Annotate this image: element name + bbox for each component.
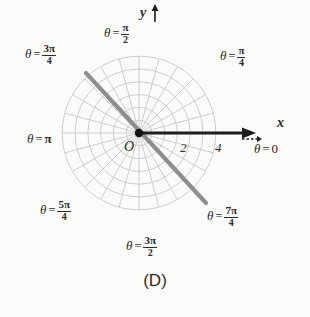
polar-diagram-figure: y θ=π2 θ=3π4 θ=π4 θ=π θ=5π4 θ=3π2 θ=7π4 …	[0, 0, 310, 317]
zero-value: 0	[271, 141, 278, 156]
fraction-numerator: π	[121, 22, 129, 35]
origin-dot	[135, 129, 143, 137]
fraction-denominator: 4	[237, 58, 245, 69]
x-axis-arrow	[139, 128, 256, 139]
angle-label-theta-5pi-over-4: θ=5π4	[40, 199, 71, 223]
fraction-denominator: 4	[57, 212, 71, 223]
equals-symbol: =	[213, 209, 224, 223]
fraction-denominator: 2	[121, 35, 129, 46]
angle-label-theta-pi: θ=π	[27, 132, 52, 146]
angle-label-theta-pi-over-2: θ=π2	[104, 22, 129, 46]
equals-symbol: =	[132, 239, 143, 253]
x-tick-label-4: 4	[215, 141, 222, 154]
fraction-denominator: 4	[42, 56, 56, 67]
fraction-numerator: 5π	[57, 199, 71, 212]
y-axis-arrow-tick	[152, 4, 159, 22]
y-axis-label: y	[140, 6, 146, 20]
x-axis-label: x	[277, 116, 284, 130]
equals-symbol: =	[31, 47, 42, 61]
fraction-pi-over-4: π4	[237, 45, 245, 69]
figure-caption: (D)	[0, 271, 310, 291]
origin-label: O	[124, 140, 134, 154]
equals-symbol: =	[110, 26, 121, 40]
fraction-numerator: 3π	[42, 43, 56, 56]
angle-label-theta-0: θ=0	[254, 142, 278, 156]
fraction-3pi-over-2: 3π2	[143, 235, 157, 259]
fraction-numerator: 7π	[224, 205, 238, 218]
angle-label-theta-7pi-over-4: θ=7π4	[207, 205, 238, 229]
x-tick-label-2: 2	[180, 141, 187, 154]
fraction-7pi-over-4: 7π4	[224, 205, 238, 229]
fraction-pi-over-2: π2	[121, 22, 129, 46]
angle-label-theta-3pi-over-4: θ=3π4	[25, 43, 56, 67]
equals-symbol: =	[226, 49, 237, 63]
angle-label-theta-3pi-over-2: θ=3π2	[126, 235, 157, 259]
pi-symbol: π	[44, 131, 51, 146]
fraction-numerator: 3π	[143, 235, 157, 248]
fraction-denominator: 4	[224, 218, 238, 229]
fraction-denominator: 2	[143, 248, 157, 259]
equals-symbol: =	[46, 203, 57, 217]
fraction-numerator: π	[237, 45, 245, 58]
angle-label-theta-pi-over-4: θ=π4	[220, 45, 245, 69]
fraction-5pi-over-4: 5π4	[57, 199, 71, 223]
fraction-3pi-over-4: 3π4	[42, 43, 56, 67]
equals-symbol: =	[33, 132, 44, 146]
equals-symbol: =	[260, 142, 271, 156]
